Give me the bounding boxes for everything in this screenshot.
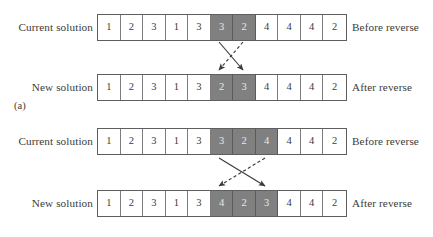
array-cell: 4 bbox=[278, 15, 301, 40]
row-label-before-reverse: Before reverse bbox=[352, 18, 433, 36]
array-cell: 3 bbox=[188, 129, 211, 154]
array-cell: 3 bbox=[143, 15, 166, 40]
array-cell: 3 bbox=[143, 191, 166, 216]
array-cell: 4 bbox=[278, 191, 301, 216]
array-cell: 1 bbox=[98, 191, 121, 216]
array-cell-shaded: 3 bbox=[233, 75, 256, 100]
panel-b: Current solution 12313324442 Before reve… bbox=[0, 114, 433, 237]
array-cell: 2 bbox=[323, 75, 346, 100]
reverse-operator-figure: Current solution 12313324442 Before reve… bbox=[0, 0, 433, 237]
solid-arrow bbox=[219, 42, 243, 70]
array-cell: 4 bbox=[256, 75, 279, 100]
row-label-current-solution: Current solution bbox=[0, 18, 93, 36]
array-cell: 3 bbox=[188, 15, 211, 40]
row-current-solution-b: Current solution 12313324442 Before reve… bbox=[0, 128, 433, 155]
solution-array-after-a: 12313234442 bbox=[97, 74, 347, 101]
row-label-new-solution: New solution bbox=[0, 194, 93, 212]
row-label-new-solution: New solution bbox=[0, 78, 93, 96]
array-cell: 2 bbox=[121, 129, 144, 154]
row-new-solution-b: New solution 12313423442 After reverse bbox=[0, 190, 433, 217]
array-cell: 3 bbox=[188, 191, 211, 216]
array-cell: 4 bbox=[278, 129, 301, 154]
array-cell: 1 bbox=[166, 129, 189, 154]
array-cell: 1 bbox=[166, 75, 189, 100]
array-cell-shaded: 2 bbox=[233, 15, 256, 40]
solid-arrow bbox=[219, 158, 265, 186]
array-cell: 3 bbox=[143, 129, 166, 154]
solution-array-after-b: 12313423442 bbox=[97, 190, 347, 217]
array-cell-shaded: 2 bbox=[211, 75, 234, 100]
dashed-arrow bbox=[219, 42, 243, 70]
array-cell: 4 bbox=[256, 15, 279, 40]
row-label-after-reverse: After reverse bbox=[352, 78, 433, 96]
array-cell: 2 bbox=[323, 129, 346, 154]
array-cell: 1 bbox=[98, 15, 121, 40]
array-cell: 4 bbox=[278, 75, 301, 100]
dashed-arrow bbox=[219, 158, 265, 186]
solution-array-before-a: 12313324442 bbox=[97, 14, 347, 41]
row-current-solution-a: Current solution 12313324442 Before reve… bbox=[0, 14, 433, 41]
array-cell: 1 bbox=[98, 129, 121, 154]
array-cell: 1 bbox=[166, 191, 189, 216]
array-cell: 3 bbox=[143, 75, 166, 100]
array-cell-shaded: 3 bbox=[211, 15, 234, 40]
array-cell: 1 bbox=[98, 75, 121, 100]
row-label-after-reverse: After reverse bbox=[352, 194, 433, 212]
solution-array-before-b: 12313324442 bbox=[97, 128, 347, 155]
array-cell-shaded: 2 bbox=[233, 129, 256, 154]
array-cell-shaded: 3 bbox=[256, 191, 279, 216]
row-label-current-solution: Current solution bbox=[0, 132, 93, 150]
array-cell: 4 bbox=[301, 191, 324, 216]
panel-a: Current solution 12313324442 Before reve… bbox=[0, 0, 433, 118]
array-cell: 2 bbox=[121, 15, 144, 40]
array-cell: 2 bbox=[121, 191, 144, 216]
array-cell: 3 bbox=[188, 75, 211, 100]
array-cell: 4 bbox=[301, 129, 324, 154]
array-cell: 2 bbox=[323, 191, 346, 216]
array-cell-shaded: 4 bbox=[211, 191, 234, 216]
caption-a: (a) bbox=[14, 100, 26, 112]
array-cell: 2 bbox=[121, 75, 144, 100]
row-new-solution-a: New solution 12313234442 After reverse bbox=[0, 74, 433, 101]
row-label-before-reverse: Before reverse bbox=[352, 132, 433, 150]
array-cell-shaded: 4 bbox=[256, 129, 279, 154]
array-cell-shaded: 2 bbox=[233, 191, 256, 216]
array-cell-shaded: 3 bbox=[211, 129, 234, 154]
array-cell: 4 bbox=[301, 15, 324, 40]
array-cell: 2 bbox=[323, 15, 346, 40]
array-cell: 1 bbox=[166, 15, 189, 40]
array-cell: 4 bbox=[301, 75, 324, 100]
